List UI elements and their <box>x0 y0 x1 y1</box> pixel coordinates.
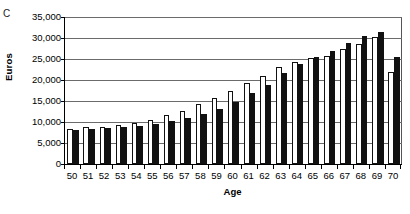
y-axis-tick-labels: 05,00010,00015,00020,00025,00030,00035,0… <box>16 0 61 214</box>
bar-group <box>372 17 383 164</box>
y-axis-tick-label: 30,000 <box>16 33 61 43</box>
x-axis-title: Age <box>64 186 401 197</box>
y-axis-tick-label: 15,000 <box>16 96 61 106</box>
x-axis-tick-label: 62 <box>257 170 273 181</box>
bar-group <box>116 17 127 164</box>
x-axis-tick-mark <box>305 164 306 169</box>
x-axis-tick-label: 61 <box>241 170 257 181</box>
bar-filled-60 <box>233 102 239 164</box>
y-axis-tick-label: 5,000 <box>16 138 61 148</box>
x-axis-tick-mark <box>80 164 81 169</box>
bar-group <box>228 17 239 164</box>
bar-filled-69 <box>378 32 384 164</box>
x-axis-tick-mark <box>176 164 177 169</box>
x-axis-tick-label: 50 <box>64 170 80 181</box>
x-axis-tick-label: 65 <box>305 170 321 181</box>
x-axis-tick-mark <box>112 164 113 169</box>
plot-area <box>64 17 402 165</box>
y-axis-tick-label: 35,000 <box>16 12 61 22</box>
bar-group <box>83 17 94 164</box>
x-axis-tick-label: 66 <box>321 170 337 181</box>
x-axis-tick-mark <box>257 164 258 169</box>
bar-filled-55 <box>153 124 159 164</box>
x-axis-tick-label: 58 <box>192 170 208 181</box>
x-axis-tick-label: 53 <box>112 170 128 181</box>
bar-group <box>100 17 111 164</box>
x-axis-tick-mark <box>400 164 401 169</box>
x-axis-tick-label: 63 <box>273 170 289 181</box>
x-axis-tick-mark <box>369 164 370 169</box>
bar-filled-54 <box>137 126 143 164</box>
bar-group <box>148 17 159 164</box>
x-axis-tick-mark <box>353 164 354 169</box>
bar-filled-64 <box>298 64 304 164</box>
x-axis-tick-mark <box>128 164 129 169</box>
x-axis-tick-mark <box>241 164 242 169</box>
bar-group <box>260 17 271 164</box>
bar-filled-53 <box>121 127 127 164</box>
bar-filled-56 <box>169 121 175 164</box>
bar-group <box>180 17 191 164</box>
bar-group <box>324 17 335 164</box>
bar-filled-58 <box>201 114 207 164</box>
bar-group <box>244 17 255 164</box>
bar-filled-57 <box>185 118 191 164</box>
x-axis-tick-label: 54 <box>128 170 144 181</box>
x-axis-tick-label: 70 <box>385 170 401 181</box>
bar-group <box>196 17 207 164</box>
chart-figure: C Euros 05,00010,00015,00020,00025,00030… <box>0 0 410 214</box>
x-axis-tick-label: 64 <box>289 170 305 181</box>
bar-group <box>164 17 175 164</box>
x-axis-tick-label: 67 <box>337 170 353 181</box>
x-axis-tick-label: 60 <box>224 170 240 181</box>
bar-group <box>276 17 287 164</box>
panel-letter: C <box>3 9 10 19</box>
x-axis-tick-mark <box>208 164 209 169</box>
x-axis-tick-mark <box>192 164 193 169</box>
bar-filled-59 <box>217 109 223 164</box>
x-axis-tick-label: 55 <box>144 170 160 181</box>
x-axis-tick-mark <box>337 164 338 169</box>
x-axis-tick-label: 56 <box>160 170 176 181</box>
bar-group <box>292 17 303 164</box>
bar-filled-52 <box>105 128 111 164</box>
x-axis-tick-mark <box>64 164 65 169</box>
bar-series-layer <box>65 17 402 164</box>
x-axis-tick-label: 68 <box>353 170 369 181</box>
bar-filled-67 <box>346 43 352 164</box>
y-axis-tick-label: 0 <box>16 159 61 169</box>
bar-filled-50 <box>73 130 79 164</box>
bar-filled-51 <box>89 129 95 164</box>
x-axis-tick-mark <box>160 164 161 169</box>
x-axis-tick-label: 69 <box>369 170 385 181</box>
bar-filled-63 <box>282 73 288 164</box>
y-axis-tick-label: 20,000 <box>16 75 61 85</box>
x-axis-tick-mark <box>144 164 145 169</box>
y-axis-tick-label: 25,000 <box>16 54 61 64</box>
y-axis-title: Euros <box>4 44 14 90</box>
x-axis-tick-label: 59 <box>208 170 224 181</box>
bar-filled-70 <box>394 57 400 164</box>
x-axis-tick-mark <box>321 164 322 169</box>
bar-group <box>340 17 351 164</box>
y-axis-tick-label: 10,000 <box>16 117 61 127</box>
bar-group <box>67 17 78 164</box>
x-axis-tick-mark <box>385 164 386 169</box>
x-axis-tick-mark <box>273 164 274 169</box>
x-axis-tick-labels: 5051525354555657585960616263646566676869… <box>64 170 401 184</box>
bar-group <box>132 17 143 164</box>
bar-filled-66 <box>330 51 336 164</box>
bar-filled-62 <box>266 85 272 164</box>
x-axis-tick-label: 52 <box>96 170 112 181</box>
bar-filled-68 <box>362 36 368 164</box>
bar-group <box>212 17 223 164</box>
x-axis-tick-mark <box>224 164 225 169</box>
x-axis-tick-label: 51 <box>80 170 96 181</box>
bar-filled-61 <box>250 93 256 164</box>
bar-group <box>388 17 399 164</box>
x-axis-tick-mark <box>289 164 290 169</box>
bar-filled-65 <box>314 57 320 164</box>
bar-group <box>356 17 367 164</box>
x-axis-tick-mark <box>96 164 97 169</box>
bar-group <box>308 17 319 164</box>
